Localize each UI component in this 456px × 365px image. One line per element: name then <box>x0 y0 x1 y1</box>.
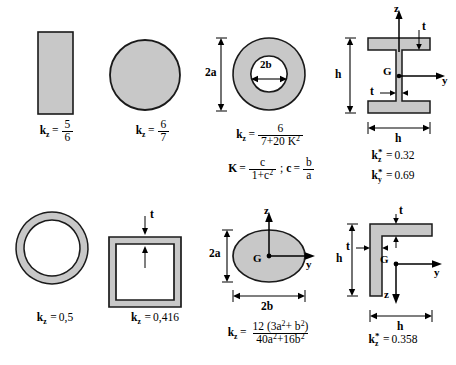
dim-2a-arrow-top <box>224 230 230 237</box>
centroid-dot <box>267 254 272 259</box>
annulus-shape <box>233 38 305 110</box>
dim-label-2b: 2b <box>260 58 272 70</box>
fraction-ellipse: 12 (3a2+ b2) 40a2+16b2 <box>250 321 312 345</box>
dim-t-leg-arrow-left <box>364 245 370 251</box>
dim-label-h-height: h <box>335 68 341 80</box>
value-kz: 0,416 <box>153 312 179 324</box>
dim-t-leg-arrow-right <box>382 245 388 251</box>
dim-width-arrow-right <box>423 125 430 131</box>
section-angle: y z G h h t t kz* = 0.358 <box>330 190 456 365</box>
dim-2b-arrow-right <box>298 293 305 299</box>
section-thin-ring: kz = 0,5 <box>0 190 110 365</box>
thin-ring-formula: kz = 0,5 <box>0 308 110 328</box>
centroid-label-G: G <box>253 252 262 264</box>
dim-label-2a: 2a <box>205 66 217 78</box>
dim-label-t: t <box>150 208 154 220</box>
centroid-label-G: G <box>380 253 389 265</box>
value-ky: 0.69 <box>394 170 414 182</box>
K-denominator: 1+c2 <box>249 169 276 182</box>
section-square-tube: t kz = 0,416 <box>100 190 210 365</box>
section-ellipse: z y G 2a 2b kz = 12 (3a2+ b2) 40a2+16b2 <box>205 190 335 365</box>
circle-formula: kz = 6 7 <box>98 118 208 144</box>
z-axis-arrowhead <box>392 294 400 304</box>
dim-label-t-leg: t <box>346 240 350 252</box>
dim-t-arrow-top <box>142 228 148 235</box>
dim-2a-arrow-bottom <box>224 275 230 282</box>
axis-label-z: z <box>394 2 399 14</box>
k-symbol: kz <box>228 327 234 339</box>
k-symbol: kz <box>131 312 137 324</box>
separator: ; <box>280 163 283 175</box>
centroid-dot <box>397 74 402 79</box>
centroid-dot <box>394 262 399 267</box>
square-tube-formula: kz = 0,416 <box>100 308 210 328</box>
dim-t-flange-arrow-lower <box>393 236 399 242</box>
i-beam-result-kz: kz* = 0.32 <box>330 147 456 165</box>
dim-label-h-width: h <box>395 132 401 144</box>
K-symbol: K <box>228 163 237 175</box>
ellipse-denominator: 40a2+16b2 <box>253 333 307 346</box>
section-i-beam: z y G h h t t kz* = 0.32 ky* = 0.69 <box>330 0 456 190</box>
axis-label-y: y <box>442 74 448 86</box>
ellipse-numerator: 12 (3a2+ b2) <box>250 321 312 333</box>
k-symbol-z: kz* <box>371 150 377 162</box>
rectangle-drawing <box>0 0 114 183</box>
dim-width-arrow-right <box>425 313 432 319</box>
fraction-c: b a <box>303 157 315 181</box>
i-beam-result-ky: ky* = 0.69 <box>330 167 456 185</box>
k-symbol: kz <box>37 312 43 324</box>
value-kz: 0,5 <box>59 312 73 324</box>
axis-label-z: z <box>384 288 389 300</box>
fraction-5-6: 5 6 <box>62 119 74 143</box>
dim-t-arrow-inner <box>142 246 148 253</box>
hollow-circle-formula: kz = 6 7+20 K2 <box>205 121 335 149</box>
thin-ring-shape <box>16 212 88 284</box>
centroid-label-G: G <box>383 65 392 77</box>
value-kz: 0.358 <box>392 334 418 346</box>
thin-ring-drawing <box>0 190 110 365</box>
dim-label-h-height: h <box>336 252 342 264</box>
dim-label-t-web: t <box>370 85 374 97</box>
axis-label-y: y <box>434 266 440 278</box>
k-symbol: kz <box>40 125 46 137</box>
k-symbol-y: ky* <box>371 170 377 182</box>
figure-sheet: kz = 5 6 kz = 6 7 <box>0 0 456 365</box>
dim-t-web-arrow-right <box>402 90 408 96</box>
dim-2b-arrow-left <box>233 293 240 299</box>
dim-label-2b: 2b <box>261 300 273 312</box>
fraction-K: c 1+c2 <box>249 157 276 181</box>
value-kz: 0.32 <box>394 150 414 162</box>
fraction-6-7: 6 7 <box>158 119 170 143</box>
dim-width-arrow-left <box>370 313 377 319</box>
fraction-k-formula: 6 7+20 K2 <box>258 123 303 147</box>
angle-result-kz: kz* = 0.358 <box>330 330 456 350</box>
dim-h-arrow-bottom <box>349 289 355 296</box>
k-symbol: kz <box>136 125 142 137</box>
dim-label-2a: 2a <box>209 247 221 259</box>
section-circle: kz = 6 7 <box>104 0 214 183</box>
k-symbol: kz <box>236 129 242 141</box>
denominator-expression: 7+20 K2 <box>258 135 303 148</box>
section-rectangle: kz = 5 6 <box>0 0 114 183</box>
circle-drawing <box>104 0 214 183</box>
dim-2a-arrow-top <box>218 38 224 45</box>
dim-t-web-arrow-left <box>390 90 396 96</box>
c-symbol: c <box>286 163 291 175</box>
axis-label-z: z <box>264 204 269 216</box>
section-hollow-circle: 2a 2b kz = 6 7+20 K2 K = c 1+c2 ; c = b … <box>205 0 335 190</box>
square-tube-drawing <box>100 190 210 365</box>
dim-2a-arrow-bottom <box>218 104 224 111</box>
axis-label-y: y <box>306 258 312 270</box>
dim-t-flange-arrow-upper <box>393 218 399 224</box>
k-symbol-z: kz* <box>369 334 375 346</box>
dim-h-arrow-bottom <box>347 106 353 113</box>
dim-label-t-flange: t <box>399 204 403 216</box>
rectangle-formula: kz = 5 6 <box>0 118 114 144</box>
dim-h-arrow-top <box>347 38 353 45</box>
dim-width-arrow-left <box>368 125 375 131</box>
dim-label-t-flange: t <box>422 20 426 32</box>
ellipse-formula: kz = 12 (3a2+ b2) 40a2+16b2 <box>205 318 335 348</box>
rectangle-shape <box>38 32 73 114</box>
dim-h-arrow-top <box>349 224 355 231</box>
circle-shape <box>110 40 180 110</box>
